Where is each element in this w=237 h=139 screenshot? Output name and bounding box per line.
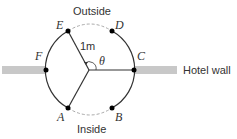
label-point-E: E bbox=[55, 18, 64, 32]
door-panel-a bbox=[68, 70, 89, 108]
label-radius: 1m bbox=[80, 40, 95, 52]
label-point-C: C bbox=[137, 49, 146, 63]
label-point-A: A bbox=[56, 110, 65, 124]
arc-bottom-dashed bbox=[68, 108, 112, 115]
arc-left bbox=[45, 31, 68, 108]
point-E bbox=[66, 29, 71, 34]
label-outside: Outside bbox=[73, 5, 111, 17]
label-inside: Inside bbox=[77, 123, 106, 135]
angle-arrowhead bbox=[84, 62, 88, 65]
label-point-F: F bbox=[34, 49, 43, 63]
point-B bbox=[110, 106, 115, 111]
point-C bbox=[132, 68, 137, 73]
wall-left bbox=[2, 66, 46, 74]
arc-top-dashed bbox=[68, 24, 112, 31]
point-D bbox=[110, 29, 115, 34]
label-theta: θ bbox=[99, 54, 105, 68]
point-F bbox=[44, 68, 49, 73]
label-point-B: B bbox=[115, 110, 123, 124]
label-hotel-wall: Hotel wall bbox=[183, 64, 231, 76]
point-A bbox=[66, 106, 71, 111]
revolving-door-diagram: Outside Inside Hotel wall 1m θ E D F C A… bbox=[0, 0, 237, 139]
label-point-D: D bbox=[114, 18, 124, 32]
wall-right bbox=[134, 66, 177, 74]
